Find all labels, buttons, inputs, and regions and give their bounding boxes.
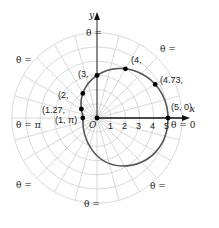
grid-ray xyxy=(97,58,157,118)
label-point-3-pi2: (3, xyxy=(78,69,89,79)
label-point-4.73-pi6: (4.73, xyxy=(160,75,183,85)
data-point xyxy=(95,73,100,78)
data-point xyxy=(123,66,128,71)
tick-label-5: 5 xyxy=(164,121,169,131)
data-point xyxy=(153,82,158,87)
tick-label-4: 4 xyxy=(150,121,155,131)
angle-label-3pi-2: θ = xyxy=(84,199,100,209)
angle-label-3pi-4: θ = xyxy=(16,55,32,65)
tick-label-3: 3 xyxy=(136,121,141,131)
data-point xyxy=(80,91,85,96)
label-point-1.27-5pi6: (1.27, xyxy=(42,105,65,115)
grid-ray xyxy=(97,118,140,192)
data-point xyxy=(166,116,171,121)
y-axis-label: y xyxy=(88,10,95,20)
angle-label-pi: θ = π xyxy=(16,120,41,130)
label-point-4-pi3: (4, xyxy=(131,55,142,65)
data-point xyxy=(79,107,84,112)
angle-label-5pi-4: θ = xyxy=(16,180,32,190)
angle-label-7pi-4: θ = xyxy=(150,181,166,191)
label-point-5-0: (5, 0) xyxy=(171,102,192,112)
angle-label-pi-2: θ = xyxy=(86,28,102,38)
grid-ray xyxy=(97,118,157,178)
point-labels: (5, 0) (4.73, (4, (3, (2, (1.27, (1, π) xyxy=(42,55,192,125)
angle-label-0: θ = 0 xyxy=(171,120,196,130)
pole-label: O xyxy=(89,120,97,130)
label-point-1-pi: (1, π) xyxy=(55,115,77,125)
grid-ray xyxy=(37,118,97,178)
tick-label-2: 2 xyxy=(122,121,127,131)
angle-label-pi-4: θ = xyxy=(160,44,176,54)
y-axis-arrow-icon xyxy=(94,12,100,20)
data-point xyxy=(80,116,85,121)
tick-label-1: 1 xyxy=(108,121,113,131)
polar-graph: x y O 1 2 3 4 5 (5, 0) (4.73, (4, (3, (2… xyxy=(0,0,219,228)
label-point-2-2pi3: (2, xyxy=(58,90,69,100)
